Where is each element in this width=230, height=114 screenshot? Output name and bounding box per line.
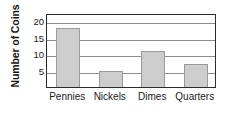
plot-area xyxy=(46,14,216,88)
y-axis-title-label: Number of Coins xyxy=(9,4,21,87)
y-axis-tick-label: 15 xyxy=(26,34,44,44)
x-axis-tick-labels: PenniesNickelsDimesQuarters xyxy=(46,91,216,111)
bar xyxy=(99,71,123,87)
bar xyxy=(184,64,208,87)
y-axis-tick-label: 20 xyxy=(26,17,44,27)
x-axis-tick-label: Pennies xyxy=(46,91,89,103)
bar-chart: Number of Coins 5101520 PenniesNickelsDi… xyxy=(0,0,230,114)
y-axis-tick-label: 5 xyxy=(26,67,44,77)
y-axis-tick-label: 10 xyxy=(26,50,44,60)
x-axis-tick-label: Quarters xyxy=(174,91,217,103)
y-axis-tick-labels: 5101520 xyxy=(26,0,44,114)
bars-group xyxy=(47,15,215,87)
x-axis-tick-label: Dimes xyxy=(131,91,174,103)
x-axis-tick-label: Nickels xyxy=(89,91,132,103)
bar xyxy=(56,28,80,87)
bar xyxy=(141,51,165,87)
